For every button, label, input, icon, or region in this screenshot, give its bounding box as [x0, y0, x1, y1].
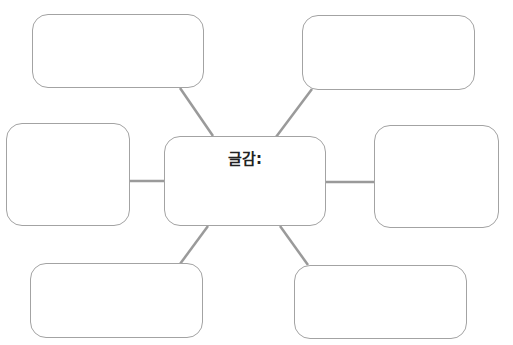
branch-box-left[interactable]: [6, 123, 130, 226]
branch-box-bottom-right[interactable]: [294, 265, 467, 339]
branch-box-top-right[interactable]: [302, 15, 475, 90]
branch-box-right[interactable]: [374, 125, 499, 228]
center-topic-box[interactable]: 글감:: [164, 136, 326, 226]
connector-bottom-right: [280, 226, 308, 265]
center-topic-label: 글감:: [165, 147, 325, 168]
branch-box-top-left[interactable]: [32, 14, 204, 88]
branch-box-bottom-left[interactable]: [30, 263, 203, 338]
connector-top-right: [276, 89, 312, 137]
connector-bottom-left: [180, 226, 208, 264]
connector-top-left: [180, 88, 213, 136]
